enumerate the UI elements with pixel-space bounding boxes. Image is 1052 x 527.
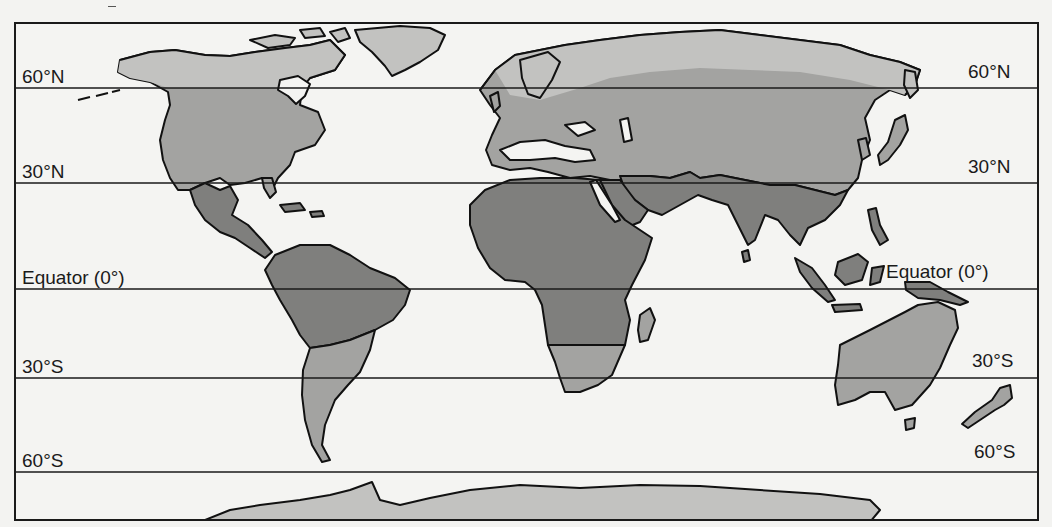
south-america-tropical — [265, 245, 410, 348]
sri-lanka — [742, 250, 750, 262]
label-60s-left: 60°S — [22, 451, 63, 470]
australia — [835, 302, 958, 410]
java — [832, 304, 862, 312]
sumatra — [795, 258, 835, 302]
borneo — [835, 254, 868, 285]
japan — [878, 115, 908, 165]
caribbean-islands — [280, 203, 324, 217]
greenland — [355, 26, 445, 76]
sulawesi — [870, 266, 884, 285]
madagascar — [638, 308, 655, 342]
antarctica — [200, 482, 880, 522]
africa-south-zone — [548, 345, 625, 392]
label-60n-left: 60°N — [22, 67, 64, 86]
label-30n-left: 30°N — [22, 162, 64, 181]
north-america-arctic-zone — [118, 40, 345, 88]
philippines — [868, 208, 888, 245]
label-60s-right: 60°S — [974, 442, 1015, 461]
label-60n-right: 60°N — [968, 62, 1010, 81]
tasmania — [905, 418, 915, 430]
south-america-temperate — [302, 330, 375, 462]
new-zealand — [962, 385, 1012, 428]
central-america — [190, 183, 272, 258]
aleutian-islands — [78, 90, 120, 100]
label-equator-right: Equator (0°) — [886, 262, 989, 281]
label-30s-left: 30°S — [22, 357, 63, 376]
label-30s-right: 30°S — [972, 351, 1013, 370]
label-equator-left: Equator (0°) — [22, 268, 125, 287]
label-30n-right: 30°N — [968, 157, 1010, 176]
